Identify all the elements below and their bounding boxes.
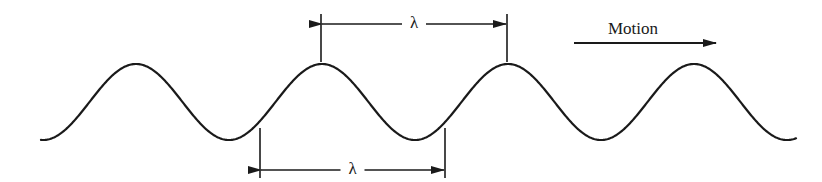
motion-indicator: Motion (574, 19, 716, 43)
top-wavelength-dimension: λ (321, 13, 507, 62)
wave-diagram: λ λ Motion (0, 0, 822, 182)
wave-diagram-svg: λ λ Motion (0, 0, 822, 182)
wave-curve (41, 64, 796, 140)
motion-label: Motion (608, 19, 659, 38)
top-wavelength-label: λ (410, 13, 419, 32)
bottom-wavelength-dimension: λ (260, 128, 445, 178)
bottom-wavelength-label: λ (348, 159, 357, 178)
